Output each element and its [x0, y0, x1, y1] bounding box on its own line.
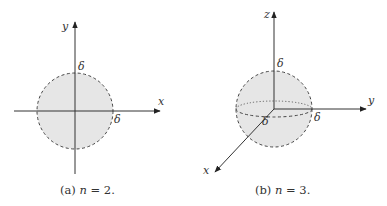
delta-label-y: δ: [314, 111, 321, 124]
caption-a: (a) n = 2.: [60, 183, 115, 197]
delta-label-top: δ: [78, 60, 85, 73]
y-axis-label: y: [61, 20, 69, 33]
delta-label-x: δ: [262, 115, 269, 128]
delta-label-right: δ: [114, 113, 121, 126]
caption-b: (b) n = 3.: [255, 183, 310, 197]
delta-label-z: δ: [277, 57, 284, 70]
y-axis-label-3d: y: [367, 94, 375, 107]
x-axis-label: x: [158, 95, 165, 108]
x-axis-label-3d: x: [203, 164, 210, 177]
figure-canvas: y x δ δ (a) n = 2. z y x δ δ δ (b) n = 3…: [0, 0, 387, 206]
z-axis-label: z: [263, 8, 270, 21]
